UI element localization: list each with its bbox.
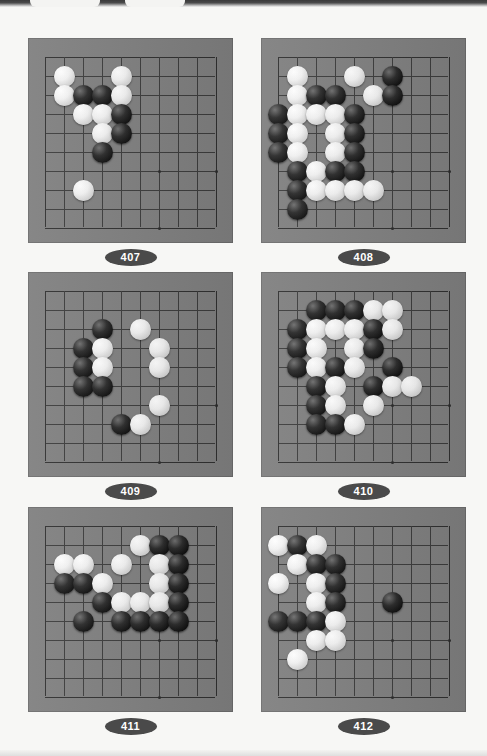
white-stone[interactable] xyxy=(363,395,384,416)
white-stone[interactable] xyxy=(306,535,327,556)
black-stone[interactable] xyxy=(287,319,308,340)
white-stone[interactable] xyxy=(306,104,327,125)
white-stone[interactable] xyxy=(149,395,170,416)
white-stone[interactable] xyxy=(111,66,132,87)
go-board-412[interactable]: 412 xyxy=(261,507,466,712)
white-stone[interactable] xyxy=(130,414,151,435)
white-stone[interactable] xyxy=(325,395,346,416)
black-stone[interactable] xyxy=(92,319,113,340)
go-board-411[interactable]: 411 xyxy=(28,507,233,712)
black-stone[interactable] xyxy=(325,592,346,613)
black-stone[interactable] xyxy=(382,66,403,87)
black-stone[interactable] xyxy=(325,554,346,575)
black-stone[interactable] xyxy=(344,142,365,163)
black-stone[interactable] xyxy=(325,357,346,378)
black-stone[interactable] xyxy=(325,573,346,594)
white-stone[interactable] xyxy=(306,180,327,201)
white-stone[interactable] xyxy=(130,319,151,340)
white-stone[interactable] xyxy=(287,649,308,670)
white-stone[interactable] xyxy=(111,554,132,575)
black-stone[interactable] xyxy=(268,611,289,632)
white-stone[interactable] xyxy=(306,592,327,613)
black-stone[interactable] xyxy=(111,414,132,435)
white-stone[interactable] xyxy=(92,338,113,359)
black-stone[interactable] xyxy=(168,535,189,556)
white-stone[interactable] xyxy=(344,357,365,378)
black-stone[interactable] xyxy=(306,376,327,397)
black-stone[interactable] xyxy=(287,338,308,359)
black-stone[interactable] xyxy=(149,535,170,556)
black-stone[interactable] xyxy=(363,338,384,359)
white-stone[interactable] xyxy=(363,85,384,106)
black-stone[interactable] xyxy=(287,357,308,378)
white-stone[interactable] xyxy=(287,142,308,163)
black-stone[interactable] xyxy=(306,554,327,575)
white-stone[interactable] xyxy=(306,319,327,340)
white-stone[interactable] xyxy=(325,123,346,144)
white-stone[interactable] xyxy=(344,66,365,87)
black-stone[interactable] xyxy=(168,592,189,613)
white-stone[interactable] xyxy=(306,630,327,651)
black-stone[interactable] xyxy=(92,376,113,397)
black-stone[interactable] xyxy=(268,142,289,163)
black-stone[interactable] xyxy=(363,319,384,340)
white-stone[interactable] xyxy=(149,357,170,378)
black-stone[interactable] xyxy=(325,85,346,106)
white-stone[interactable] xyxy=(268,535,289,556)
white-stone[interactable] xyxy=(325,104,346,125)
black-stone[interactable] xyxy=(344,123,365,144)
black-stone[interactable] xyxy=(363,376,384,397)
white-stone[interactable] xyxy=(268,573,289,594)
black-stone[interactable] xyxy=(287,161,308,182)
black-stone[interactable] xyxy=(149,611,170,632)
black-stone[interactable] xyxy=(382,592,403,613)
white-stone[interactable] xyxy=(149,338,170,359)
white-stone[interactable] xyxy=(54,66,75,87)
white-stone[interactable] xyxy=(382,300,403,321)
go-board-409[interactable]: 409 xyxy=(28,272,233,477)
black-stone[interactable] xyxy=(306,300,327,321)
black-stone[interactable] xyxy=(92,592,113,613)
white-stone[interactable] xyxy=(382,376,403,397)
black-stone[interactable] xyxy=(344,104,365,125)
black-stone[interactable] xyxy=(111,611,132,632)
black-stone[interactable] xyxy=(287,535,308,556)
white-stone[interactable] xyxy=(325,142,346,163)
go-board-408[interactable]: 408 xyxy=(261,38,466,243)
black-stone[interactable] xyxy=(73,357,94,378)
black-stone[interactable] xyxy=(306,611,327,632)
white-stone[interactable] xyxy=(287,123,308,144)
white-stone[interactable] xyxy=(287,66,308,87)
white-stone[interactable] xyxy=(92,123,113,144)
white-stone[interactable] xyxy=(149,573,170,594)
white-stone[interactable] xyxy=(306,161,327,182)
white-stone[interactable] xyxy=(287,104,308,125)
white-stone[interactable] xyxy=(344,180,365,201)
white-stone[interactable] xyxy=(401,376,422,397)
white-stone[interactable] xyxy=(54,554,75,575)
black-stone[interactable] xyxy=(92,85,113,106)
white-stone[interactable] xyxy=(344,319,365,340)
white-stone[interactable] xyxy=(325,376,346,397)
white-stone[interactable] xyxy=(287,554,308,575)
white-stone[interactable] xyxy=(306,338,327,359)
black-stone[interactable] xyxy=(325,414,346,435)
black-stone[interactable] xyxy=(325,300,346,321)
black-stone[interactable] xyxy=(168,573,189,594)
black-stone[interactable] xyxy=(306,85,327,106)
black-stone[interactable] xyxy=(325,161,346,182)
black-stone[interactable] xyxy=(111,123,132,144)
white-stone[interactable] xyxy=(363,300,384,321)
black-stone[interactable] xyxy=(268,104,289,125)
black-stone[interactable] xyxy=(73,611,94,632)
white-stone[interactable] xyxy=(325,319,346,340)
black-stone[interactable] xyxy=(344,300,365,321)
black-stone[interactable] xyxy=(54,573,75,594)
black-stone[interactable] xyxy=(92,142,113,163)
black-stone[interactable] xyxy=(306,414,327,435)
white-stone[interactable] xyxy=(344,414,365,435)
white-stone[interactable] xyxy=(130,535,151,556)
white-stone[interactable] xyxy=(382,319,403,340)
black-stone[interactable] xyxy=(382,357,403,378)
white-stone[interactable] xyxy=(363,180,384,201)
